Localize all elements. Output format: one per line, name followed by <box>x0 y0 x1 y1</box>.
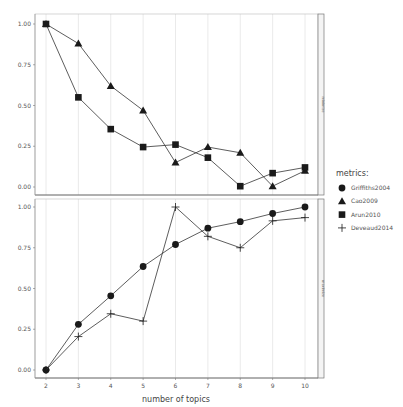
circle-marker <box>204 225 211 232</box>
legend-title: metrics: <box>336 169 369 178</box>
y-tick-label: 1.00 <box>18 20 32 27</box>
y-tick-label: 0.50 <box>18 102 32 109</box>
y-tick-label: 0.75 <box>18 61 32 68</box>
x-tick-label: 4 <box>109 382 113 389</box>
legend-label: Deveaud2014 <box>351 224 393 231</box>
legend-item-Arun2010: Arun2010 <box>339 211 381 218</box>
circle-marker <box>269 210 276 217</box>
square-marker <box>172 141 179 148</box>
triangle-marker <box>338 197 346 204</box>
plus-marker <box>107 310 115 318</box>
square-marker <box>269 170 276 177</box>
x-tick-label: 6 <box>174 382 178 389</box>
faceted-line-chart: minimize0.000.250.500.751.00maximize0.00… <box>0 0 403 407</box>
strip-label: maximize <box>321 280 325 297</box>
x-tick-label: 3 <box>76 382 80 389</box>
panel-border <box>35 199 318 378</box>
square-marker <box>302 164 309 171</box>
plus-marker <box>301 214 309 222</box>
legend-label: Arun2010 <box>351 211 381 218</box>
legend-item-Griffiths2004: Griffiths2004 <box>339 184 391 191</box>
legend-label: Cao2009 <box>351 197 378 204</box>
square-marker <box>339 211 346 218</box>
x-axis-title: number of topics <box>142 395 210 404</box>
strip-label: minimize <box>321 97 325 113</box>
y-tick-label: 0.25 <box>18 325 32 332</box>
triangle-marker <box>204 143 212 150</box>
panel-border <box>35 14 318 195</box>
legend-label: Griffiths2004 <box>351 184 390 191</box>
legend-item-Deveaud2014: Deveaud2014 <box>338 224 393 232</box>
square-marker <box>140 144 147 151</box>
x-tick-label: 7 <box>206 382 210 389</box>
y-tick-label: 0.25 <box>18 142 32 149</box>
x-tick-label: 9 <box>271 382 275 389</box>
x-tick-label: 8 <box>238 382 242 389</box>
triangle-marker <box>107 82 115 89</box>
circle-marker <box>107 292 114 299</box>
y-tick-label: 0.50 <box>18 285 32 292</box>
circle-marker <box>237 218 244 225</box>
facet-strip: minimize <box>318 14 325 195</box>
triangle-marker <box>172 159 180 166</box>
square-marker <box>205 154 212 161</box>
panels: minimize0.000.250.500.751.00maximize0.00… <box>18 14 326 389</box>
panel-maximize: maximize0.000.250.500.751.002345678910 <box>18 199 326 389</box>
plus-marker <box>338 224 346 232</box>
x-tick-label: 10 <box>301 382 309 389</box>
facet-strip: maximize <box>318 199 325 378</box>
square-marker <box>237 183 244 190</box>
y-tick-label: 0.75 <box>18 244 32 251</box>
plus-marker <box>139 317 147 325</box>
y-tick-label: 1.00 <box>18 203 32 210</box>
legend: metrics:Griffiths2004Cao2009Arun2010Deve… <box>336 169 393 232</box>
square-marker <box>43 21 50 28</box>
circle-marker <box>75 321 82 328</box>
panel-minimize: minimize0.000.250.500.751.00 <box>18 14 326 195</box>
triangle-marker <box>74 40 82 47</box>
triangle-marker <box>139 106 147 113</box>
circle-marker <box>172 241 179 248</box>
y-tick-label: 0.00 <box>18 366 32 373</box>
circle-marker <box>302 204 309 211</box>
x-tick-label: 2 <box>44 382 48 389</box>
y-tick-label: 0.00 <box>18 183 32 190</box>
square-marker <box>107 126 114 133</box>
square-marker <box>75 94 82 101</box>
legend-item-Cao2009: Cao2009 <box>338 197 378 204</box>
circle-marker <box>339 185 346 192</box>
x-tick-label: 5 <box>141 382 145 389</box>
circle-marker <box>140 263 147 270</box>
